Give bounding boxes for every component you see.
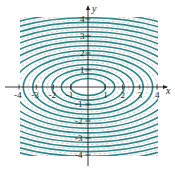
x-tick-label: -3	[31, 90, 39, 100]
y-tick-label: 4	[80, 14, 85, 24]
x-tick-label: -1	[66, 90, 74, 100]
y-tick-label: -1	[75, 99, 83, 109]
x-axis-label: x	[165, 85, 171, 96]
y-tick-label: 2	[80, 48, 85, 58]
y-axis-arrow-icon	[86, 5, 90, 10]
y-tick-label: -4	[75, 150, 83, 160]
x-tick-label: 3	[138, 90, 143, 100]
x-tick-label: 4	[155, 90, 160, 100]
x-tick-label: -4	[14, 90, 22, 100]
x-tick-label: 2	[121, 90, 126, 100]
y-tick-label: 1	[80, 65, 85, 75]
y-tick-label: -3	[75, 133, 83, 143]
contour-plot: -4-3-2-112344321-1-2-3-4 x y	[0, 0, 175, 176]
y-tick-label: 3	[80, 31, 85, 41]
y-tick-label: -2	[75, 116, 83, 126]
x-tick-label: -2	[49, 90, 57, 100]
y-axis-label: y	[91, 3, 97, 14]
x-tick-label: 1	[103, 90, 108, 100]
